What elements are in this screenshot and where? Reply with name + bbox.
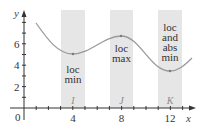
- x-axis-arrow-icon: [189, 106, 196, 111]
- y-tick-label-4: 4: [14, 59, 20, 71]
- y-tick-label-2: 2: [14, 81, 20, 93]
- interval-i-letter: I: [70, 95, 75, 106]
- interval-j-annotation-line-2: max: [112, 52, 131, 64]
- abs-min-point-k: [169, 70, 171, 72]
- x-tick-label-8: 8: [119, 112, 125, 124]
- interval-k-letter: K: [166, 95, 175, 106]
- interval-i-annotation-line-2: min: [64, 73, 82, 85]
- extrema-diagram: y x 0 2 4 6 4 8 12 loc min I loc max J l…: [0, 0, 208, 128]
- interval-k-annotation-line-4: min: [161, 51, 179, 63]
- interval-j-letter: J: [119, 95, 124, 106]
- y-axis-label: y: [13, 7, 19, 19]
- origin-label: 0: [15, 111, 21, 123]
- y-axis-arrow-icon: [22, 10, 27, 17]
- x-axis-label: x: [185, 112, 191, 124]
- local-min-point-i: [72, 53, 74, 55]
- x-tick-label-12: 12: [165, 112, 176, 124]
- x-tick-label-4: 4: [70, 112, 76, 124]
- y-tick-label-6: 6: [14, 38, 20, 50]
- local-max-point-j: [120, 35, 122, 37]
- interval-band-i: [61, 10, 85, 108]
